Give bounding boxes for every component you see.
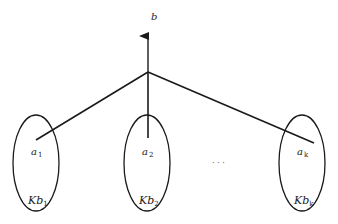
root-node: b — [148, 11, 157, 72]
node-2: a2Kb2 — [124, 115, 170, 211]
tree-diagram: b a1Kb1a2Kb2akKbk · · · — [0, 0, 338, 224]
element-label: a2 — [142, 146, 153, 159]
edges-group — [36, 72, 314, 143]
element-label: a1 — [31, 146, 42, 159]
set-label: Kb1 — [27, 194, 48, 208]
node-1: a1Kb1 — [13, 115, 59, 211]
set-label: Kb2 — [138, 194, 159, 208]
ellipsis-dots: · · · — [212, 159, 225, 168]
root-label: b — [151, 11, 157, 22]
ellipsis-text: · · · — [212, 159, 225, 168]
element-label: ak — [297, 146, 309, 159]
edge-node-k — [148, 72, 314, 143]
leaf-nodes-group: a1Kb1a2Kb2akKbk — [13, 115, 325, 211]
node-k: akKbk — [279, 115, 325, 211]
set-label: Kbk — [293, 194, 314, 208]
diagram-canvas: b a1Kb1a2Kb2akKbk · · · — [0, 0, 338, 224]
